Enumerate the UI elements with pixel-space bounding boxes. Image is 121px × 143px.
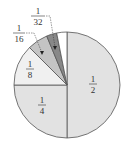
svg-text:16: 16 <box>15 34 25 44</box>
svg-text:1: 1 <box>36 6 41 16</box>
svg-text:32: 32 <box>34 17 43 27</box>
svg-text:1: 1 <box>91 74 96 84</box>
svg-text:4: 4 <box>40 106 45 116</box>
svg-text:2: 2 <box>91 85 96 95</box>
svg-text:1: 1 <box>17 23 22 33</box>
svg-text:8: 8 <box>28 70 33 80</box>
pie-chart: 1 2 1 4 1 8 1 16 1 32 <box>0 0 121 143</box>
svg-text:1: 1 <box>40 95 45 105</box>
svg-text:1: 1 <box>28 59 33 69</box>
